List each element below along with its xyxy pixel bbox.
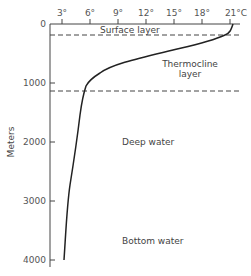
y-tick-labels: 0 1000 2000 3000 4000 <box>23 19 46 265</box>
x-tick-label: 15° <box>166 8 182 18</box>
x-tick-label: 12° <box>138 8 154 18</box>
y-axis-title: Meters <box>6 126 16 157</box>
x-ticks <box>62 19 230 24</box>
thermocline-label: Thermocline <box>161 59 218 69</box>
y-tick-label: 0 <box>40 19 46 29</box>
y-tick-label: 4000 <box>23 255 46 265</box>
surface-layer-label: Surface layer <box>100 25 160 35</box>
x-tick-labels: 3° 6° 9° 12° 15° 18° 21°C <box>57 8 247 18</box>
x-tick-label: 6° <box>85 8 95 18</box>
y-ticks <box>50 83 55 260</box>
y-tick-label: 3000 <box>23 196 46 206</box>
x-tick-label: 21°C <box>225 8 247 18</box>
thermocline-layer-label: layer <box>179 69 202 79</box>
deep-water-label: Deep water <box>122 137 175 147</box>
y-tick-label: 1000 <box>23 78 46 88</box>
temperature-depth-chart: 3° 6° 9° 12° 15° 18° 21°C 0 1000 2000 30… <box>0 0 251 276</box>
x-tick-label: 18° <box>194 8 210 18</box>
y-tick-label: 2000 <box>23 137 46 147</box>
x-tick-label: 9° <box>113 8 123 18</box>
x-tick-label: 3° <box>57 8 67 18</box>
bottom-water-label: Bottom water <box>122 236 184 246</box>
